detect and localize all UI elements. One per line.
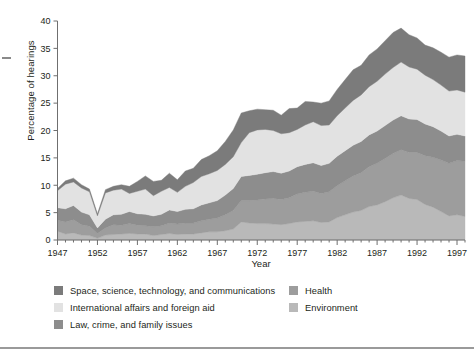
y-axis-label: Percentage of hearings <box>25 1 36 181</box>
y-tick-label: 0 <box>45 235 50 245</box>
legend-item[interactable]: Health <box>289 283 358 298</box>
x-tick-label: 1992 <box>407 248 427 258</box>
y-tick-label: 20 <box>40 126 50 136</box>
chart-page: 0510152025303540194719521957196219671972… <box>0 0 474 357</box>
legend-swatch-icon <box>54 320 63 329</box>
x-tick-label: 1967 <box>207 248 227 258</box>
x-tick-label: 1977 <box>287 248 307 258</box>
legend-item[interactable]: International affairs and foreign aid <box>54 300 275 315</box>
chart-legend: Space, science, technology, and communic… <box>54 283 464 335</box>
y-tick-label: 25 <box>40 98 50 108</box>
legend-item-label: Health <box>305 286 332 296</box>
legend-column-left: Space, science, technology, and communic… <box>54 283 275 334</box>
x-tick-label: 1987 <box>367 248 387 258</box>
legend-swatch-icon <box>289 303 298 312</box>
legend-swatch-icon <box>54 303 63 312</box>
x-tick-label: 1972 <box>247 248 267 258</box>
x-tick-label: 1982 <box>327 248 347 258</box>
y-tick-label: 35 <box>40 44 50 54</box>
x-tick-label: 1957 <box>127 248 147 258</box>
legend-item-label: International affairs and foreign aid <box>70 303 215 313</box>
x-tick-label: 1962 <box>167 248 187 258</box>
legend-item-label: Law, crime, and family issues <box>70 320 192 330</box>
legend-column-right: Health Environment <box>289 283 358 317</box>
y-tick-label: 40 <box>40 16 50 26</box>
y-tick-label: 15 <box>40 153 50 163</box>
x-tick-label: 1952 <box>87 248 107 258</box>
legend-item[interactable]: Space, science, technology, and communic… <box>54 283 275 298</box>
chart-canvas: 0510152025303540194719521957196219671972… <box>0 0 474 272</box>
footer-rule <box>0 347 474 349</box>
stacked-area-chart: 0510152025303540194719521957196219671972… <box>0 0 474 272</box>
legend-item[interactable]: Environment <box>289 300 358 315</box>
legend-item[interactable]: Law, crime, and family issues <box>54 317 275 332</box>
legend-swatch-icon <box>54 286 63 295</box>
legend-swatch-icon <box>289 286 298 295</box>
legend-item-label: Space, science, technology, and communic… <box>70 286 275 296</box>
x-tick-label: 1997 <box>447 248 467 258</box>
y-tick-label: 30 <box>40 71 50 81</box>
x-tick-label: 1947 <box>47 248 67 258</box>
legend-item-label: Environment <box>305 303 358 313</box>
y-tick-label: 5 <box>45 208 50 218</box>
x-axis-label: Year <box>57 258 465 269</box>
y-tick-label: 10 <box>40 181 50 191</box>
